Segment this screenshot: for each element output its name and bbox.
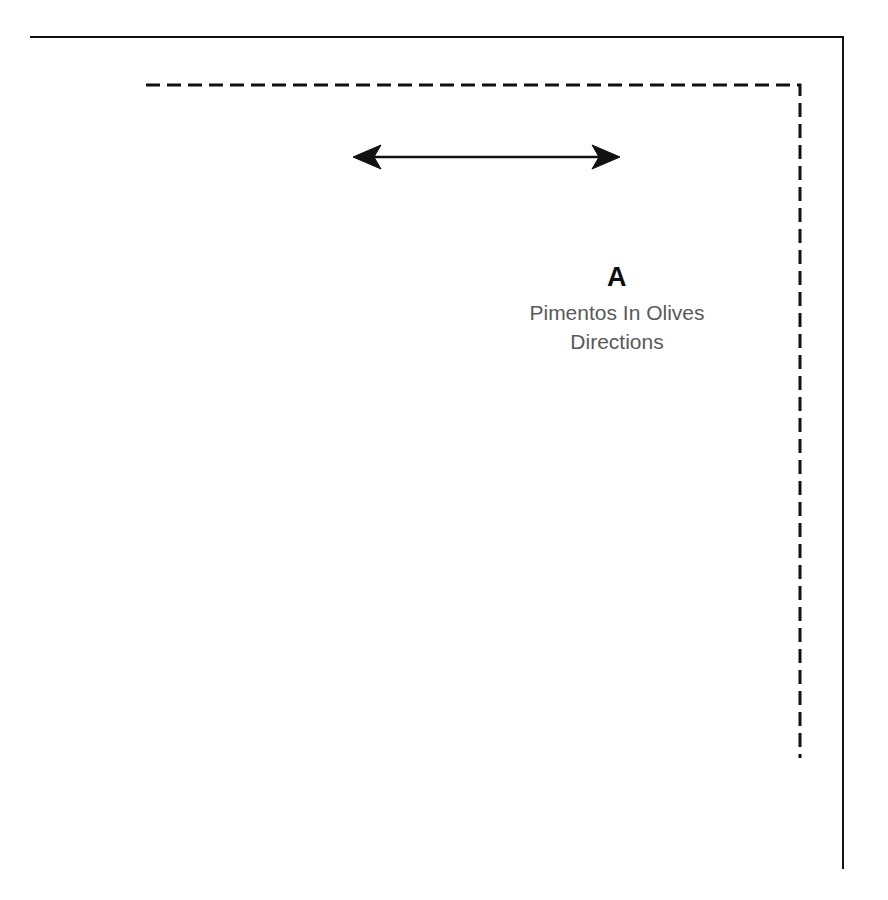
solid-right-triangle <box>31 37 843 868</box>
figure-caption: Pimentos In Olives Directions <box>457 298 777 356</box>
triangle-diagram-svg <box>0 0 888 900</box>
caption-line-1: Pimentos In Olives <box>457 298 777 327</box>
dashed-right-triangle <box>146 85 800 758</box>
diagram-canvas: A Pimentos In Olives Directions <box>0 0 888 900</box>
caption-line-2: Directions <box>457 327 777 356</box>
figure-letter-label: A <box>517 262 717 292</box>
